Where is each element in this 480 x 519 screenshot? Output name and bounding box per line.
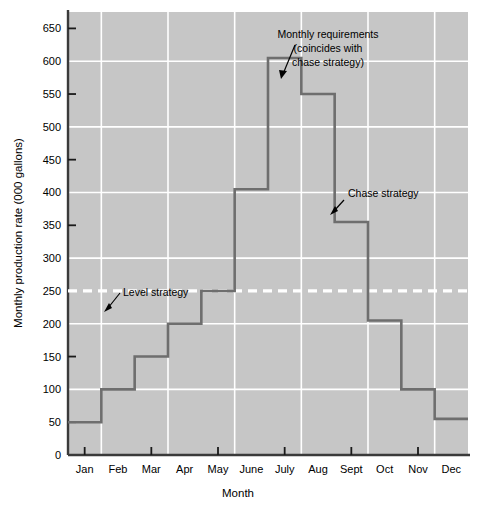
- x-axis-title: Month: [222, 487, 254, 499]
- y-tick-label: 650: [43, 22, 61, 34]
- y-tick-label: 100: [43, 383, 61, 395]
- monthly-requirements-line-2: (coincides with: [294, 42, 363, 54]
- x-tick-label: Nov: [408, 463, 428, 475]
- chart-canvas: 050100150200250300350400450500550600650 …: [0, 0, 480, 519]
- x-tick-label: Aug: [308, 463, 328, 475]
- y-tick-label: 150: [43, 351, 61, 363]
- y-tick-label: 200: [43, 318, 61, 330]
- production-rate-step-chart: 050100150200250300350400450500550600650 …: [0, 0, 480, 519]
- x-tick-label: Apr: [176, 463, 193, 475]
- y-tick-label: 0: [55, 449, 61, 461]
- x-tick-label: Feb: [109, 463, 128, 475]
- x-tick-label: Sept: [340, 463, 363, 475]
- y-axis-title: Monthly production rate (000 gallons): [12, 138, 24, 328]
- monthly-requirements-line-3: chase strategy): [292, 56, 364, 68]
- x-tick-label: Oct: [376, 463, 393, 475]
- y-tick-label: 600: [43, 55, 61, 67]
- y-tick-label: 500: [43, 121, 61, 133]
- chase-strategy-label: Chase strategy: [348, 187, 419, 199]
- y-tick-label: 350: [43, 219, 61, 231]
- x-tick-label: Dec: [442, 463, 462, 475]
- x-tick-label: May: [208, 463, 229, 475]
- y-tick-label: 300: [43, 252, 61, 264]
- y-axis-tick-labels: 050100150200250300350400450500550600650: [43, 22, 61, 461]
- y-tick-label: 450: [43, 154, 61, 166]
- level-strategy-label: Level strategy: [123, 286, 189, 298]
- x-tick-label: Jan: [76, 463, 94, 475]
- y-tick-label: 250: [43, 285, 61, 297]
- x-tick-label: June: [239, 463, 263, 475]
- y-tick-label: 550: [43, 88, 61, 100]
- x-tick-label: July: [275, 463, 295, 475]
- y-tick-label: 50: [49, 416, 61, 428]
- y-tick-label: 400: [43, 186, 61, 198]
- x-axis-tick-labels: JanFebMarAprMayJuneJulyAugSeptOctNovDec: [76, 463, 462, 475]
- x-tick-label: Mar: [142, 463, 161, 475]
- monthly-requirements-line-1: Monthly requirements: [278, 28, 379, 40]
